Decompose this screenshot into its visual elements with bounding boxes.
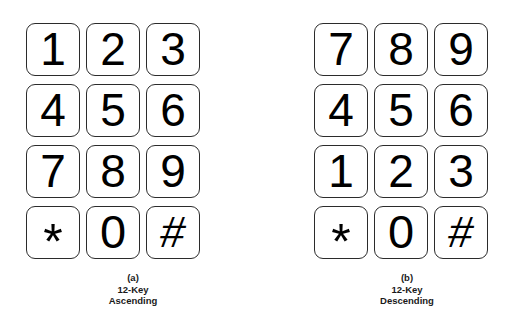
key-9[interactable]: 9 — [434, 23, 488, 76]
key-label: * — [43, 217, 62, 260]
key-label: 5 — [388, 87, 414, 133]
key-label: 4 — [40, 87, 66, 133]
keypad-panel-ascending: 123456789*0# (a) 12-Key Ascending — [0, 0, 266, 335]
key-hash[interactable]: # — [434, 206, 488, 259]
key-label: 8 — [388, 26, 414, 72]
caption-line-2: Descending — [274, 295, 532, 307]
key-4[interactable]: 4 — [26, 84, 80, 137]
key-3[interactable]: 3 — [146, 23, 200, 76]
caption-line-1: 12-Key — [274, 284, 532, 296]
key-label: 0 — [100, 208, 126, 255]
key-label: 5 — [100, 87, 126, 133]
caption-descending: (b) 12-Key Descending — [274, 272, 532, 307]
key-0[interactable]: 0 — [86, 206, 140, 259]
key-9[interactable]: 9 — [146, 145, 200, 198]
key-star[interactable]: * — [26, 206, 80, 259]
key-2[interactable]: 2 — [86, 23, 140, 76]
keypad-grid-ascending: 123456789*0# — [26, 23, 200, 259]
key-5[interactable]: 5 — [86, 84, 140, 137]
caption-index: (b) — [274, 272, 532, 284]
key-label: 9 — [160, 148, 186, 194]
key-1[interactable]: 1 — [314, 145, 368, 198]
key-7[interactable]: 7 — [26, 145, 80, 198]
key-6[interactable]: 6 — [434, 84, 488, 137]
key-8[interactable]: 8 — [374, 23, 428, 76]
key-label: 3 — [448, 148, 474, 194]
caption-index: (a) — [0, 272, 266, 284]
key-8[interactable]: 8 — [86, 145, 140, 198]
key-label: 4 — [328, 87, 354, 133]
key-label: * — [331, 217, 350, 260]
caption-line-1: 12-Key — [0, 284, 266, 296]
key-4[interactable]: 4 — [314, 84, 368, 137]
key-1[interactable]: 1 — [26, 23, 80, 76]
key-star[interactable]: * — [314, 206, 368, 259]
key-2[interactable]: 2 — [374, 145, 428, 198]
caption-line-2: Ascending — [0, 295, 266, 307]
caption-ascending: (a) 12-Key Ascending — [0, 272, 266, 307]
key-label: 2 — [388, 148, 414, 194]
keypad-panel-descending: 789456123*0# (b) 12-Key Descending — [266, 0, 532, 335]
keypad-grid-descending: 789456123*0# — [314, 23, 488, 259]
key-label: 0 — [388, 208, 414, 255]
key-label: 7 — [40, 148, 66, 194]
keypad-layout-figure: 123456789*0# (a) 12-Key Ascending 789456… — [0, 0, 532, 335]
key-label: 3 — [160, 26, 186, 72]
key-label: 6 — [448, 87, 474, 133]
key-label: 1 — [40, 26, 66, 72]
key-label: 9 — [448, 26, 474, 72]
key-label: 6 — [160, 87, 186, 133]
key-label: 7 — [328, 26, 354, 72]
key-label: # — [445, 210, 476, 254]
key-hash[interactable]: # — [146, 206, 200, 259]
key-6[interactable]: 6 — [146, 84, 200, 137]
key-7[interactable]: 7 — [314, 23, 368, 76]
key-5[interactable]: 5 — [374, 84, 428, 137]
key-label: # — [157, 210, 188, 254]
key-label: 8 — [100, 148, 126, 194]
key-label: 2 — [100, 26, 126, 72]
key-label: 1 — [328, 148, 354, 194]
key-3[interactable]: 3 — [434, 145, 488, 198]
key-0[interactable]: 0 — [374, 206, 428, 259]
